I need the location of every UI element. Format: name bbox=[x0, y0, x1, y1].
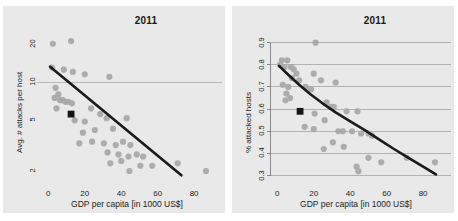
y-tick-label: 0.5 bbox=[257, 120, 266, 142]
panel-left-avg-attacks: 2011 GDP per capita [in 1000 US$] 201052… bbox=[3, 6, 225, 213]
y-tick-label: 0.8 bbox=[257, 53, 266, 75]
y-axis-title: Avg. # attacks per host bbox=[15, 72, 24, 153]
figure-container: 2011 GDP per capita [in 1000 US$] 201052… bbox=[0, 0, 458, 221]
y-axis-title: % attacked hosts bbox=[244, 92, 253, 153]
panel-left-xaxis-label: GDP per capita [in 1000 US$] bbox=[3, 199, 225, 209]
x-tick-label: 20 bbox=[73, 189, 97, 198]
panel-right-xaxis-label: GDP per capita [in 1000 US$] bbox=[232, 199, 454, 209]
x-tick-label: 40 bbox=[109, 189, 133, 198]
y-tick-label: 0.9 bbox=[257, 31, 266, 53]
panel-right-pct-attacked: 2011 GDP per capita [in 1000 US$] 0.90.8… bbox=[232, 6, 454, 213]
x-tick-label: 0 bbox=[265, 189, 289, 198]
x-tick-label: 60 bbox=[375, 189, 399, 198]
x-tick-label: 80 bbox=[411, 189, 435, 198]
y-tick-label: 0.6 bbox=[257, 98, 266, 120]
y-tick-label: 20 bbox=[28, 32, 37, 54]
x-tick-label: 60 bbox=[146, 189, 170, 198]
x-tick-label: 40 bbox=[338, 189, 362, 198]
y-tick-label: 0.4 bbox=[257, 142, 266, 164]
y-tick-label: 10 bbox=[28, 71, 37, 93]
y-tick-label: 2 bbox=[28, 160, 37, 182]
y-tick-label: 0.7 bbox=[257, 75, 266, 97]
y-tick-label: 0.3 bbox=[257, 164, 266, 186]
y-tick-label: 5 bbox=[28, 109, 37, 131]
x-tick-label: 80 bbox=[182, 189, 206, 198]
x-tick-label: 20 bbox=[302, 189, 326, 198]
x-tick-label: 0 bbox=[36, 189, 60, 198]
